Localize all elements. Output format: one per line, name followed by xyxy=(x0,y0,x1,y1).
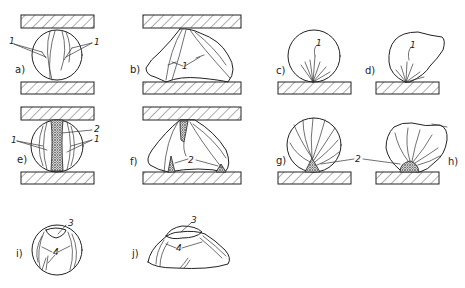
callout-1: 1 xyxy=(316,38,322,48)
panel-f: 2 f) xyxy=(130,107,241,184)
top-plate xyxy=(143,15,241,28)
panel-label-i: i) xyxy=(16,248,23,259)
panel-label-j: j) xyxy=(131,248,139,259)
crushed-zone xyxy=(216,164,226,172)
callout-1: 1 xyxy=(410,40,416,50)
panel-label-c: c) xyxy=(276,65,285,76)
callout-3: 3 xyxy=(68,218,74,228)
panel-label-g: g) xyxy=(276,155,286,166)
panel-label-h: h) xyxy=(448,156,458,167)
panel-d: 1 d) xyxy=(365,32,444,94)
callout-1: 1 xyxy=(94,134,100,144)
callout-2: 2 xyxy=(355,154,361,164)
top-plate xyxy=(21,107,94,120)
panel-h: h) xyxy=(376,123,458,184)
callout-1: 1 xyxy=(11,135,17,145)
plate xyxy=(376,172,439,184)
callout-1: 1 xyxy=(94,37,100,47)
panel-e: 1 2 1 e) xyxy=(11,107,100,184)
panel-label-d: d) xyxy=(365,65,375,76)
callout-2: 2 xyxy=(94,124,100,134)
sphere xyxy=(32,30,82,80)
panel-j: 3 4 j) xyxy=(131,215,229,269)
bottom-plate xyxy=(143,82,241,94)
bottom-plate xyxy=(143,172,241,184)
callout-1: 1 xyxy=(182,61,188,71)
sphere xyxy=(288,30,340,82)
bottom-plate xyxy=(21,82,94,94)
panel-b: 1 b) xyxy=(130,15,241,94)
crushed-zone xyxy=(180,121,188,142)
panel-c: 1 c) xyxy=(276,30,351,94)
callout-4: 4 xyxy=(53,247,59,257)
panel-label-f: f) xyxy=(130,156,138,167)
panel-label-b: b) xyxy=(130,64,140,75)
panel-g: g) xyxy=(276,118,351,184)
callout-2: 2 xyxy=(188,155,194,165)
panel-label-a: a) xyxy=(15,64,25,75)
crushed-zone xyxy=(168,156,175,172)
plate xyxy=(278,82,351,94)
panel-label-e: e) xyxy=(17,154,27,165)
fracture-diagram: 1 1 a) 1 b) 1 c) xyxy=(0,0,465,288)
callout-4: 4 xyxy=(176,243,182,253)
callout-3: 3 xyxy=(191,215,197,225)
crushed-zone xyxy=(51,120,63,171)
plate xyxy=(278,172,351,184)
panel-a: 1 1 a) xyxy=(9,15,100,94)
callout-1: 1 xyxy=(9,36,15,46)
plate xyxy=(376,82,439,94)
deformed-particle xyxy=(146,29,233,82)
panel-i: 3 4 i) xyxy=(16,218,82,275)
top-plate xyxy=(21,15,94,28)
bottom-plate xyxy=(21,172,94,184)
top-plate xyxy=(143,107,241,120)
